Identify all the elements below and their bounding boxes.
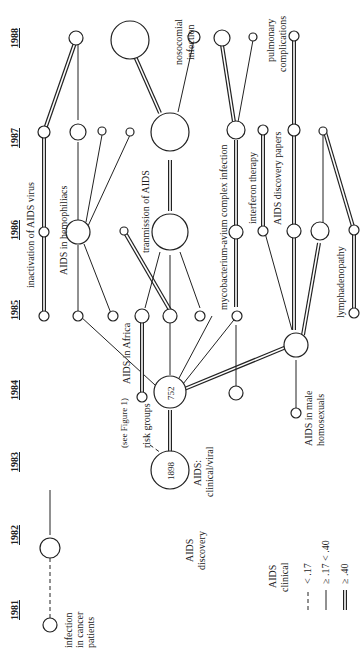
year-1988: 1988 (9, 28, 20, 48)
labels: infection in cancer patients AIDS discov… (25, 16, 346, 648)
label-see-figure: (see Figure 1) (119, 398, 129, 448)
node-papers-1987 (288, 124, 300, 136)
node-lymph-1985 (349, 308, 359, 318)
legend-double-label: ≥ .40 (339, 564, 350, 585)
node-1986-small (120, 227, 128, 235)
year-1987: 1987 (9, 128, 20, 148)
node-interferon-1987 (258, 125, 268, 135)
label-male-homosexuals-2: homosexuals (315, 394, 326, 446)
node-myco-1984 (229, 386, 243, 400)
label-nosocomial-2: infection (185, 24, 196, 60)
node-male-homosexuals (284, 333, 308, 357)
node-pulmonary (289, 31, 299, 41)
node-inactivation-1987 (38, 126, 50, 138)
node-homosexuals-1984 (291, 408, 301, 418)
node-transmission-1987 (151, 113, 189, 151)
node-lymph-1986 (311, 222, 329, 240)
node-1985-b (163, 309, 177, 323)
node-interferon-1986 (258, 226, 268, 236)
legend-dashed-label: < .17 (302, 563, 313, 584)
node-inactivation-1986 (39, 227, 49, 237)
node-inactivation-1985 (39, 311, 49, 321)
label-infection-cancer-1: infection (63, 612, 74, 648)
node-hemo-1985 (73, 311, 83, 321)
label-aids-discovery-2: discovery (196, 531, 207, 570)
label-aids-clinical-1: AIDS: (192, 460, 203, 486)
label-mycobacterium: mycobacterium-avium complex infection (218, 145, 229, 311)
year-1982: 1982 (9, 525, 20, 545)
node-africa-1985 (135, 309, 149, 323)
node-transmission-1988 (111, 21, 149, 59)
year-1981: 1981 (9, 600, 20, 620)
node-africa-1984 (137, 392, 147, 402)
count-1898: 1898 (166, 462, 176, 481)
label-interferon: interferon therapy (247, 152, 258, 224)
count-752: 752 (166, 387, 176, 401)
label-aids-discovery-1: AIDS (184, 539, 195, 562)
label-lymphadenopathy: lymphadenopathy (335, 246, 346, 318)
node-myco-1988 (214, 30, 230, 46)
node-hemo-1987-c (126, 128, 134, 136)
legend: AIDS clinical < .17 ≥ .17 < .40 ≥ .40 (267, 540, 350, 610)
citation-cluster-diagram: 1981 1982 1983 1984 1985 1986 1987 1988 (0, 0, 363, 655)
node-lymphadenopathy-1986 (349, 225, 359, 235)
legend-single-label: ≥ .17 < .40 (320, 540, 331, 584)
node-lymph-1987 (319, 127, 327, 135)
node-inactivation-1988 (69, 31, 83, 45)
node-papers-1986 (287, 224, 301, 238)
label-risk-groups: risk groups (141, 403, 152, 448)
node-1985-a (108, 311, 118, 321)
node-myco-1985 (232, 311, 242, 321)
node-transmission-1986 (152, 214, 188, 250)
label-hemophiliacs: AIDS in hemophiliacs (58, 185, 69, 275)
node-hemophiliacs (66, 220, 90, 244)
year-1984: 1984 (9, 380, 20, 400)
legend-title-1: AIDS (267, 565, 278, 588)
label-aids-clinical-2: clinical/viral (204, 446, 215, 497)
node-interferon-1988 (249, 33, 257, 41)
node-1985-c (195, 311, 205, 321)
label-pulmonary-1: pulmonary (265, 19, 276, 62)
legend-title-2: clinical (279, 562, 290, 592)
year-axis: 1981 1982 1983 1984 1985 1986 1987 1988 (9, 28, 20, 620)
label-discovery-papers: AIDS discovery papers (272, 132, 283, 225)
node-hemo-1987-b (98, 127, 106, 135)
node-infection-cancer (43, 618, 57, 632)
label-inactivation: inactivation of AIDS virus (25, 182, 36, 288)
diagram-canvas: 1981 1982 1983 1984 1985 1986 1987 1988 (0, 0, 363, 655)
year-1983: 1983 (9, 452, 20, 472)
label-male-homosexuals-1: AIDS in male (303, 390, 314, 446)
label-infection-cancer-3: patients (85, 617, 96, 648)
label-transmission: tranmission of AIDS (140, 170, 151, 253)
node-myco-1986 (229, 225, 243, 239)
node-myco-1987 (227, 121, 245, 139)
year-1986: 1986 (9, 220, 20, 240)
label-aids-africa: AIDS in Africa (121, 322, 132, 384)
label-infection-cancer-2: in cancer (74, 611, 85, 648)
label-pulmonary-2: complications (277, 16, 288, 72)
node-aids-discovery (40, 538, 60, 558)
year-1985: 1985 (9, 300, 20, 320)
node-hemo-1987 (70, 124, 86, 140)
label-nosocomial-1: nosocomial (173, 19, 184, 65)
